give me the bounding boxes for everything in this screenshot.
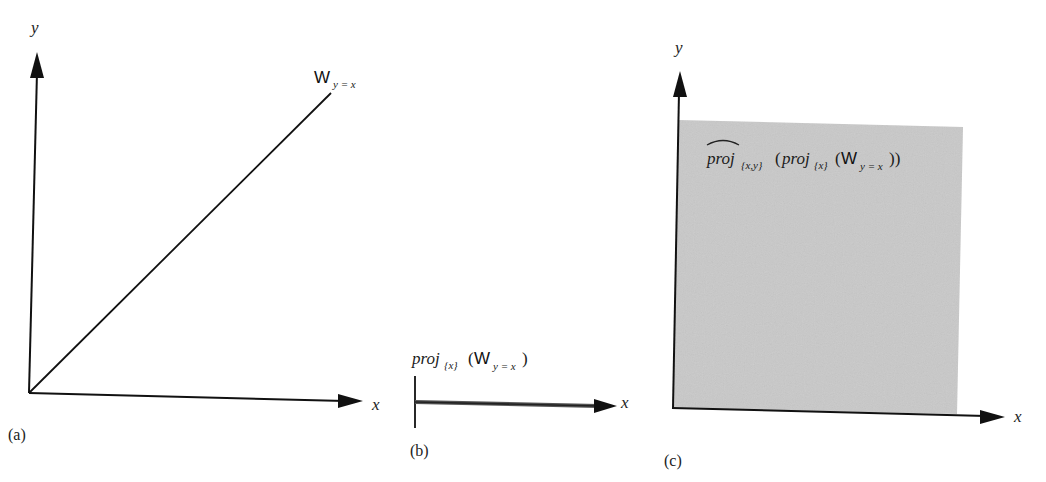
w-subscript: y = x: [859, 160, 883, 172]
y-axis-arrow-icon: [673, 71, 687, 97]
x-axis-label: x: [371, 395, 380, 414]
x-axis-line: [29, 393, 345, 401]
panel-a: y x W y = x (a): [8, 18, 380, 444]
panel-b: x proj {x} ( W y = x ) (b): [410, 349, 629, 460]
close-parens: )): [889, 149, 900, 168]
w-symbol: W: [314, 68, 330, 87]
outer-proj-subscript: {x,y}: [741, 159, 763, 171]
line-label-w-y-equals-x: W y = x: [314, 68, 356, 90]
w-subscript: y = x: [492, 360, 516, 372]
y-axis-arrow-icon: [30, 52, 44, 78]
proj-subscript: {x}: [444, 359, 458, 371]
x-axis-arrow-icon: [980, 410, 1005, 424]
close-paren: ): [522, 349, 528, 368]
outer-proj-operator: proj: [706, 149, 735, 168]
projection-label-proj-x-w: proj {x} ( W y = x ): [411, 349, 528, 372]
w-subscript: y = x: [332, 78, 356, 90]
y-axis-line: [29, 72, 37, 393]
proj-operator: proj: [411, 349, 440, 368]
panel-c: y x proj {x,y} ( proj {x} ( W y = x )) (…: [664, 38, 1022, 470]
inner-proj-operator: proj: [781, 149, 810, 168]
w-symbol: W: [841, 149, 857, 168]
panel-label-c: (c): [664, 452, 682, 470]
x-axis-label: x: [620, 393, 629, 412]
x-axis-arrow-icon: [594, 399, 617, 413]
y-axis-label: y: [673, 38, 683, 57]
inner-proj-subscript: {x}: [814, 159, 828, 171]
panel-label-b: (b): [410, 442, 429, 460]
panel-label-a: (a): [8, 426, 26, 444]
w-symbol: W: [474, 349, 490, 368]
outer-open-paren: (: [775, 149, 781, 168]
figure-canvas: y x W y = x (a) x proj {x} ( W y = x ) (…: [0, 0, 1046, 482]
x-axis-label: x: [1013, 407, 1022, 426]
x-axis-arrow-icon: [338, 394, 363, 408]
y-axis-label: y: [29, 18, 39, 37]
diagonal-line-y-equals-x: [29, 93, 331, 393]
